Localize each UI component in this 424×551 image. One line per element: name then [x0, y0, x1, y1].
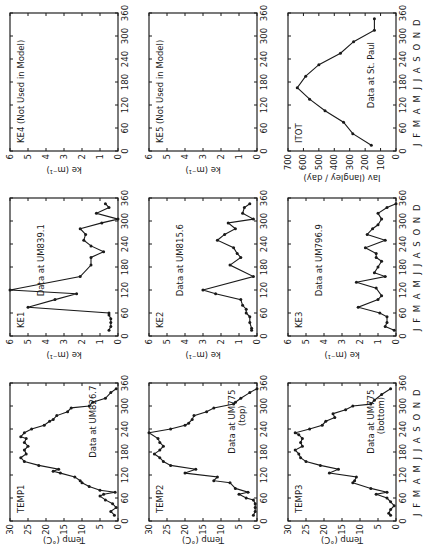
data-point: [27, 306, 30, 309]
x-tick-label: 240: [398, 421, 408, 437]
data-point: [301, 445, 304, 448]
plot-frame: [149, 198, 257, 336]
data-point: [380, 218, 383, 221]
data-point: [234, 401, 237, 404]
y-tick-label: 0: [391, 339, 401, 344]
data-point: [90, 256, 93, 259]
y-tick-label: 0: [391, 154, 401, 159]
data-point: [227, 221, 230, 224]
data-point: [75, 292, 78, 295]
x-tick-label: 360: [398, 375, 408, 391]
panel-annotation: Data at UM775: [227, 390, 237, 454]
data-point: [223, 233, 226, 236]
y-tick-label: 5: [95, 524, 105, 529]
panel-title: KE4 (Not Used in Model): [16, 40, 26, 143]
data-point: [108, 312, 111, 315]
data-point: [248, 321, 251, 324]
x-tick-label: 180: [259, 74, 269, 90]
data-point: [333, 416, 336, 419]
y-tick-label: 3: [198, 339, 208, 344]
data-point: [23, 431, 26, 434]
data-point: [23, 441, 26, 444]
y-tick-label: 5: [162, 339, 172, 344]
y-tick-label: 500: [314, 154, 324, 170]
x-tick-label: 240: [120, 421, 130, 437]
data-point: [25, 452, 28, 455]
data-line: [297, 19, 374, 146]
data-point: [216, 475, 219, 478]
y-tick-label: 2: [355, 339, 365, 344]
data-point: [234, 227, 237, 230]
y-tick-label: 2: [216, 339, 226, 344]
data-point: [216, 239, 219, 242]
data-point: [250, 327, 253, 330]
data-point: [386, 206, 389, 209]
x-tick-label: 300: [120, 398, 130, 414]
y-tick-label: 20: [180, 524, 190, 535]
y-tick-label: 0: [391, 524, 401, 529]
y-tick-label: 4: [180, 339, 190, 344]
y-tick-label: 5: [373, 524, 383, 529]
y-tick-label: 2: [77, 339, 87, 344]
x-tick-label: 60: [259, 123, 269, 134]
y-tick-label: 10: [77, 524, 87, 535]
data-point: [91, 401, 94, 404]
data-point: [162, 460, 165, 463]
x-tick-label: 60: [120, 308, 130, 319]
y-tick-label: 700: [283, 154, 293, 170]
data-point: [158, 449, 161, 452]
x-tick-label: 180: [398, 259, 408, 275]
y-tick-label: 5: [23, 339, 33, 344]
data-point: [380, 260, 383, 263]
data-point: [104, 202, 107, 205]
x-tick-label: 300: [259, 28, 269, 44]
data-point: [104, 397, 107, 400]
x-tick-label: 360: [120, 5, 130, 21]
data-point: [19, 456, 22, 459]
data-point: [373, 399, 376, 402]
data-point: [169, 428, 172, 431]
y-tick-label: 3: [59, 154, 69, 159]
y-tick-label: 15: [337, 524, 347, 535]
plot-frame: [10, 13, 118, 151]
data-point: [25, 437, 28, 440]
y-tick-label: 5: [301, 339, 311, 344]
data-point: [82, 239, 85, 242]
data-point: [239, 397, 242, 400]
x-tick-label: 0: [398, 333, 408, 338]
data-point: [148, 431, 151, 434]
data-point: [384, 239, 387, 242]
data-point: [332, 412, 335, 415]
data-point: [375, 287, 378, 290]
data-point: [95, 212, 98, 215]
data-point: [158, 441, 161, 444]
panel-title: KE1: [16, 312, 26, 328]
data-point: [364, 246, 367, 249]
panel-annotation: Data at UM796.9: [314, 224, 324, 296]
data-point: [352, 40, 355, 43]
data-point: [109, 317, 112, 320]
plot-frame: [10, 198, 118, 336]
data-point: [37, 464, 40, 467]
x-tick-label: 60: [120, 493, 130, 504]
data-line: [356, 204, 396, 331]
data-point: [79, 275, 82, 278]
data-point: [389, 508, 392, 511]
y-tick-label: 10: [216, 524, 226, 535]
x-tick-label: 240: [259, 236, 269, 252]
y-tick-label: 400: [329, 154, 339, 170]
data-point: [339, 52, 342, 55]
data-point: [109, 325, 112, 328]
x-tick-label: 0: [120, 148, 130, 153]
data-point: [241, 304, 244, 307]
panel-title: ITOT: [294, 123, 304, 143]
data-point: [355, 281, 358, 284]
data-point: [389, 387, 392, 390]
y-tick-label: 30: [5, 524, 15, 535]
x-tick-label: 0: [120, 333, 130, 338]
y-tick-label: 4: [41, 339, 51, 344]
x-tick-label: 360: [120, 190, 130, 206]
data-point: [27, 445, 30, 448]
x-tick-label: 120: [259, 97, 269, 113]
data-point: [377, 298, 380, 301]
